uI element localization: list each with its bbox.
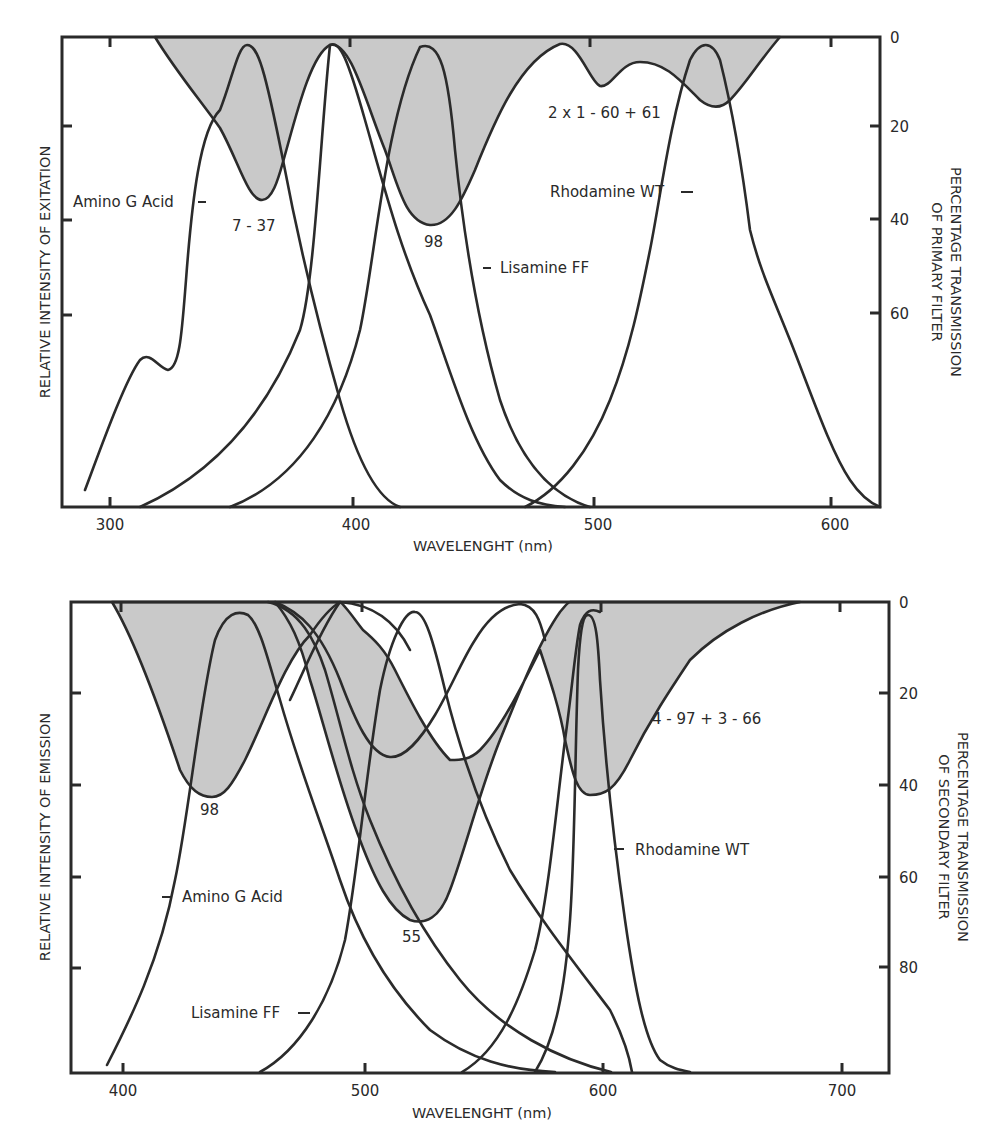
y2-tick-label-60: 60: [899, 869, 918, 887]
y2-tick-label-60: 60: [890, 305, 909, 323]
x-tick-label-500: 500: [351, 1082, 380, 1100]
x-tick-label-400: 400: [109, 1082, 138, 1100]
y2-tick-label-20: 20: [890, 118, 909, 136]
y2-axis-title-line1: PERCENTAGE TRANSMISSION: [948, 167, 964, 377]
label-filter-2x1-60-61: 2 x 1 - 60 + 61: [548, 104, 661, 122]
x-tick-label-700: 700: [828, 1082, 857, 1100]
y2-tick-label-20: 20: [899, 685, 918, 703]
label-filter-4-97-3-66: 4 - 97 + 3 - 66: [652, 710, 761, 728]
y2-axis-title-line2: OF PRIMARY FILTER: [929, 202, 945, 341]
label-filter-98: 98: [200, 801, 219, 819]
y2-axis-title-line1: PERCENTAGE TRANSMISSION: [955, 732, 971, 942]
label-amino-g-acid: Amino G Acid: [73, 193, 174, 211]
label-filter-7-37: 7 - 37: [232, 217, 276, 235]
y2-tick-label-80: 80: [899, 959, 918, 977]
primary-filter-shaded-area: [155, 37, 780, 225]
x-tick-label-600: 600: [821, 516, 850, 534]
y2-tick-label-0: 0: [890, 29, 900, 47]
y-axis-title: RELATIVE INTENSITY OF EXITATION: [37, 146, 53, 399]
label-amino-g-acid: Amino G Acid: [182, 888, 283, 906]
label-rhodamine-wt: Rhodamine WT: [635, 841, 750, 859]
emission-chart: 400 500 600 700 0 20 40 60 80 WAVELENGHT…: [37, 594, 971, 1121]
x-axis-title: WAVELENGHT (nm): [413, 538, 553, 554]
x-tick-label-300: 300: [96, 516, 125, 534]
secondary-filter-shaded-area: [112, 602, 800, 921]
x-tick-label-400: 400: [342, 516, 371, 534]
y2-tick-label-40: 40: [890, 211, 909, 229]
y-axis-title: RELATIVE INTENSITY OF EMISSION: [37, 713, 53, 961]
y2-tick-label-40: 40: [899, 777, 918, 795]
label-filter-98: 98: [424, 233, 443, 251]
figure: 300 400 500 600 0 20 40 60 WAVELENGHT (n…: [0, 0, 1005, 1145]
y2-axis-title-line2: OF SECONDARY FILTER: [936, 754, 952, 919]
x-tick-label-600: 600: [589, 1082, 618, 1100]
label-rhodamine-wt: Rhodamine WT: [550, 183, 665, 201]
label-filter-55: 55: [402, 928, 421, 946]
label-lisamine-ff: Lisamine FF: [191, 1004, 280, 1022]
excitation-chart: 300 400 500 600 0 20 40 60 WAVELENGHT (n…: [37, 29, 964, 554]
y2-tick-label-0: 0: [899, 594, 909, 612]
label-lisamine-ff: Lisamine FF: [500, 259, 589, 277]
x-tick-label-500: 500: [584, 516, 613, 534]
x-axis-title: WAVELENGHT (nm): [412, 1105, 552, 1121]
